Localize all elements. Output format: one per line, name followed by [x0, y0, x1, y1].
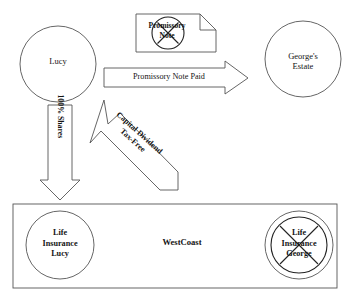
- diagram-canvas: Lucy George's Estate Promissory Note Pro…: [0, 0, 349, 299]
- node-life-insurance-lucy-circle[interactable]: [26, 211, 94, 279]
- arrow-capital-dividend-tax-free[interactable]: [90, 100, 178, 190]
- diagram-vector-layer: [0, 0, 349, 299]
- arrow-promissory-note-paid[interactable]: [104, 61, 248, 94]
- node-lucy-circle[interactable]: [20, 26, 96, 102]
- node-georges-estate-circle[interactable]: [265, 21, 341, 97]
- arrow-100-percent-shares[interactable]: [40, 105, 80, 200]
